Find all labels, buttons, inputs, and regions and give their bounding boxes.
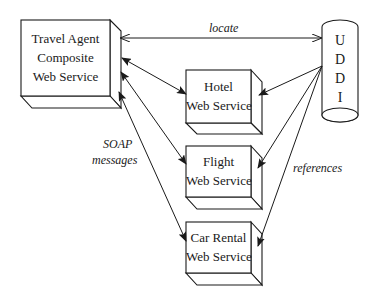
car-rental-label: Car Rental Web Service [186, 228, 251, 266]
travel-agent-depth-bottom [21, 96, 121, 108]
flight-label: Flight Web Service [186, 152, 251, 190]
uddi-letter-1: U [330, 33, 350, 49]
soap-edge-hotel [122, 58, 186, 94]
flight-line-1: Flight [186, 152, 251, 171]
hotel-line-2: Web Service [186, 96, 251, 115]
uddi-letter-4: I [330, 90, 350, 106]
uddi-top-arc [322, 20, 358, 27]
travel-agent-line-2: Composite [21, 48, 110, 67]
hotel-depth-bottom [186, 123, 262, 134]
travel-agent-depth-right [110, 20, 121, 108]
soap-label-line-2: messages [92, 153, 137, 168]
soap-label-line-1: SOAP [103, 137, 132, 152]
flight-depth-bottom [186, 197, 262, 209]
uddi-bottom-ellipse [322, 108, 358, 122]
locate-label: locate [209, 21, 238, 36]
car-rental-line-2: Web Service [186, 247, 251, 266]
references-edge-flight [258, 66, 322, 168]
references-edge-car-rental [258, 66, 322, 246]
uddi-letter-2: D [330, 52, 350, 68]
hotel-label: Hotel Web Service [186, 77, 251, 115]
travel-agent-line-3: Web Service [21, 67, 110, 86]
car-rental-line-1: Car Rental [186, 228, 251, 247]
flight-line-2: Web Service [186, 171, 251, 190]
hotel-line-1: Hotel [186, 77, 251, 96]
car-rental-depth-bottom [186, 273, 262, 285]
travel-agent-label: Travel Agent Composite Web Service [21, 29, 110, 86]
uddi-letter-3: D [330, 71, 350, 87]
references-label: references [293, 161, 342, 176]
travel-agent-line-1: Travel Agent [21, 29, 110, 48]
